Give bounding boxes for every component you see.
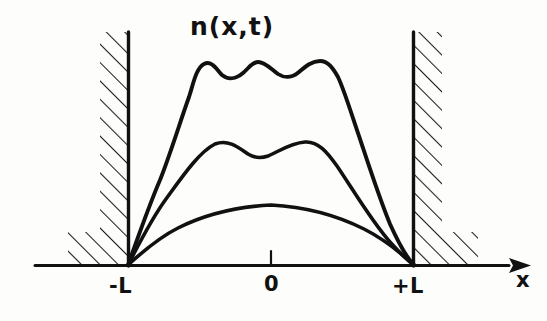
x-tick-label-minus-L: -L <box>109 274 132 298</box>
figure-title-label: n(x,t) <box>190 12 274 41</box>
figure-container: n(x,t) -L 0 +L x <box>0 0 547 321</box>
x-tick-label-origin: 0 <box>264 272 279 296</box>
x-tick-label-plus-L: +L <box>392 274 424 298</box>
x-axis-label: x <box>516 268 530 292</box>
right-wall-hatching <box>408 25 488 273</box>
